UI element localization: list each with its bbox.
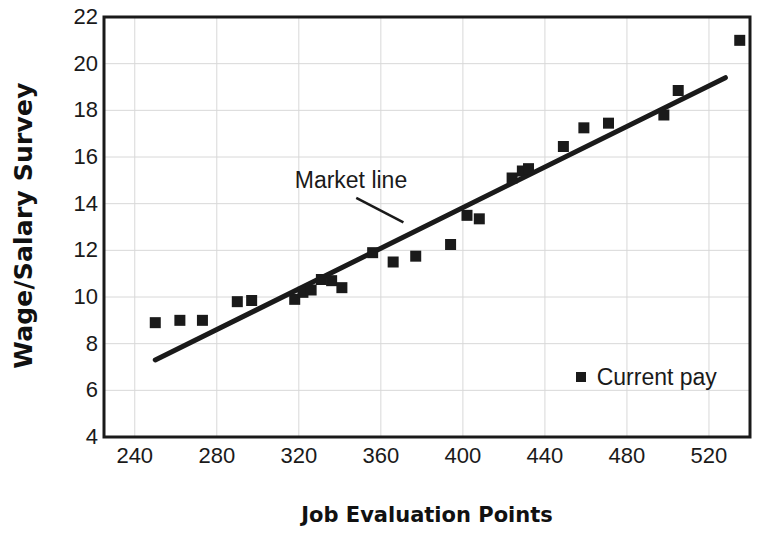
data-point-marker (336, 282, 347, 293)
data-point-marker (461, 210, 472, 221)
data-point-marker (246, 295, 257, 306)
data-point-marker (174, 315, 185, 326)
data-point-marker (306, 285, 317, 296)
legend-label-current-pay: Current pay (597, 364, 717, 391)
data-point-marker (523, 163, 534, 174)
data-point-marker (388, 257, 399, 268)
data-point-marker (734, 35, 745, 46)
data-point-marker (603, 118, 614, 129)
data-point-marker (197, 315, 208, 326)
chart-legend: Current pay (576, 364, 717, 391)
data-points (150, 35, 745, 328)
data-point-marker (558, 141, 569, 152)
data-point-marker (445, 239, 456, 250)
data-point-marker (232, 296, 243, 307)
data-point-marker (507, 173, 518, 184)
data-point-marker (410, 251, 421, 262)
market-line-annotation: Market line (295, 167, 407, 194)
data-point-marker (474, 213, 485, 224)
data-point-marker (316, 274, 327, 285)
data-point-marker (578, 122, 589, 133)
market-trend-line (155, 78, 725, 360)
data-point-marker (367, 247, 378, 258)
data-point-marker (150, 317, 161, 328)
market-line-leader-arrow (356, 198, 403, 223)
chart-figure: Wage/Salary Survey 46810121416182022 240… (0, 0, 771, 547)
data-point-marker (673, 85, 684, 96)
data-point-marker (326, 275, 337, 286)
plot-area (0, 0, 771, 547)
legend-marker-square-icon (576, 372, 586, 382)
data-point-marker (658, 110, 669, 121)
